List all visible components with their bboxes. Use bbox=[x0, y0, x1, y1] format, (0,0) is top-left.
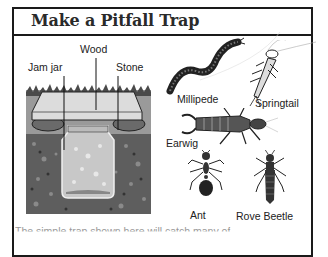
label-jam-jar: Jam jar bbox=[28, 61, 62, 73]
ant-illustration bbox=[186, 150, 226, 206]
label-stone: Stone bbox=[116, 61, 143, 73]
rove-beetle-illustration bbox=[250, 150, 290, 206]
label-earwig: Earwig bbox=[166, 137, 198, 149]
label-ant: Ant bbox=[190, 209, 206, 221]
label-wood: Wood bbox=[80, 43, 107, 55]
decorative-curve bbox=[200, 30, 320, 90]
label-rove-beetle: Rove Beetle bbox=[236, 210, 293, 222]
label-millipede: Millipede bbox=[177, 93, 218, 105]
